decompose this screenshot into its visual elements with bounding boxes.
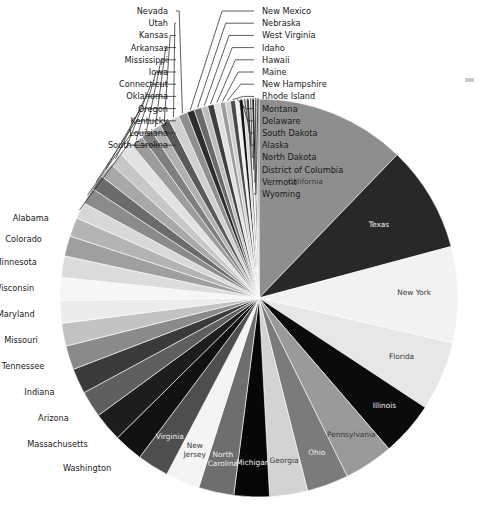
slice-label-outer: Colorado — [5, 234, 42, 244]
slice-label-outer: Missouri — [4, 335, 38, 345]
slice-label-outer: Delaware — [262, 116, 301, 126]
slice-label-outer: Minnesota — [0, 257, 37, 267]
slice-label-outer: New Hampshire — [262, 79, 327, 89]
slice-label-inner: Texas — [368, 220, 390, 229]
slice-label-outer: Mississippi — [124, 55, 168, 65]
slice-label-outer: Maryland — [0, 309, 35, 319]
slice-label-inner: Michigan — [236, 458, 269, 467]
slice-label-outer: Kentucky — [131, 116, 169, 126]
slice-label-outer: Indiana — [24, 387, 54, 397]
slice-label-outer: Louisiana — [129, 128, 168, 138]
slice-label-outer: Maine — [262, 67, 287, 77]
slice-label-outer: Oregon — [138, 104, 168, 114]
slice-label-outer: South Carolina — [108, 140, 168, 150]
pie-chart-svg: CaliforniaTexasNew YorkFloridaIllinoisPe… — [0, 0, 485, 526]
slice-label-outer: Wisconsin — [0, 283, 34, 293]
slice-label-outer: Massachusetts — [27, 439, 88, 449]
slice-label-outer: Wyoming — [262, 189, 300, 199]
pie-chart: CaliforniaTexasNew YorkFloridaIllinoisPe… — [0, 0, 485, 526]
slice-label-inner: Virginia — [156, 432, 184, 441]
slice-label-outer: North Dakota — [262, 152, 317, 162]
slice-label-outer: West Virginia — [262, 30, 316, 40]
slice-label-outer: Vermont — [262, 177, 297, 187]
slice-label-outer: Alabama — [13, 213, 49, 223]
edge-marker — [465, 78, 474, 82]
slice-label-inner: Georgia — [270, 456, 299, 465]
leader-line — [204, 35, 254, 105]
slice-label-inner: Ohio — [308, 448, 326, 457]
slice-label-outer: Rhode Island — [262, 91, 315, 101]
slice-label-outer: Nebraska — [262, 18, 301, 28]
slice-label-outer: Hawaii — [262, 55, 289, 65]
leader-line — [190, 11, 254, 110]
slice-label-inner: Florida — [389, 352, 414, 361]
slice-label-outer: New Mexico — [262, 6, 311, 16]
slice-label-outer: Connecticut — [119, 79, 169, 89]
slice-label-outer: Tennessee — [1, 361, 45, 371]
slice-label-outer: Oklahoma — [126, 91, 168, 101]
slice-label-inner: Illinois — [373, 401, 397, 410]
leader-line — [228, 84, 255, 100]
leader-line — [211, 48, 255, 104]
slice-label-outer: Nevada — [137, 6, 168, 16]
slice-label-inner: Pennsylvania — [327, 430, 376, 439]
slice-label-outer: Arkansas — [131, 43, 168, 53]
slice-label-outer: Washington — [63, 463, 111, 473]
pie-slices — [60, 99, 458, 497]
slice-label-outer: Idaho — [262, 43, 285, 53]
slice-label-outer: Alaska — [262, 140, 289, 150]
slice-label-outer: Montana — [262, 104, 298, 114]
slice-label-outer: Kansas — [139, 30, 168, 40]
slice-label-outer: District of Columbia — [262, 165, 343, 175]
slice-label-outer: South Dakota — [262, 128, 317, 138]
slice-label-inner: New York — [397, 288, 432, 297]
slice-label-outer: Arizona — [38, 413, 69, 423]
slice-label-outer: Utah — [149, 18, 168, 28]
leader-line — [223, 72, 255, 101]
leader-line — [174, 23, 177, 117]
slice-label-outer: Iowa — [149, 67, 168, 77]
leader-line — [176, 11, 182, 113]
